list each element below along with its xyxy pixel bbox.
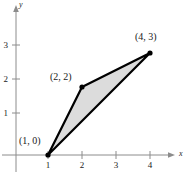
x-tick-label-1: 1: [42, 161, 54, 170]
y-axis-label: y: [19, 1, 23, 9]
shaded-triangle: [48, 53, 150, 155]
vertex-dot-2-2: [79, 84, 84, 89]
point-label-4-3: (4, 3): [135, 32, 157, 42]
x-tick-label-2: 2: [76, 161, 88, 170]
vertex-dot-1-0: [45, 152, 50, 157]
x-axis-arrow-icon: [168, 152, 175, 158]
plot-canvas: [0, 0, 189, 178]
x-tick-label-3: 3: [110, 161, 122, 170]
x-axis-label: x: [179, 150, 183, 158]
y-tick-label-3: 3: [0, 41, 8, 50]
y-axis-arrow-icon: [13, 5, 19, 12]
x-tick-label-4: 4: [144, 161, 156, 170]
y-tick-label-2: 2: [0, 75, 8, 84]
coordinate-plane-figure: x y 1 2 3 4 1 2 3 (1, 0) (2, 2) (4, 3): [0, 0, 189, 178]
point-label-1-0: (1, 0): [19, 136, 41, 146]
vertex-dot-4-3: [147, 50, 152, 55]
y-tick-label-1: 1: [0, 109, 8, 118]
point-label-2-2: (2, 2): [50, 72, 72, 82]
